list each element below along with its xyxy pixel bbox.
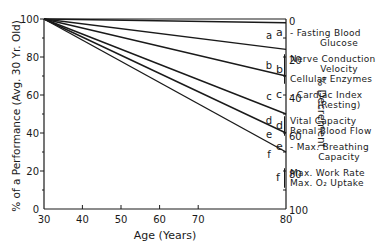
y-tick-labels: 100 80 60 40 20 0 — [20, 14, 39, 215]
legend-item-a: a - Fasting Blood Glucose — [276, 28, 388, 48]
x-tick-labels: 30 40 50 60 70 80 — [38, 214, 293, 225]
svg-text:f: f — [267, 149, 271, 160]
svg-text:40: 40 — [26, 128, 39, 139]
legend-f-line-1: Max. Work Rate — [290, 168, 388, 178]
svg-text:70: 70 — [192, 214, 205, 225]
svg-text:40: 40 — [76, 214, 89, 225]
line-letter-labels: a b c d e f — [266, 30, 272, 160]
svg-text:100: 100 — [20, 14, 39, 25]
svg-text:a: a — [266, 30, 272, 41]
brace-icon — [284, 116, 285, 136]
svg-text:80: 80 — [26, 52, 39, 63]
legend-item-f: f Max. Work Rate Max. O₂ Uptake — [276, 168, 388, 188]
brace-icon — [284, 168, 285, 188]
legend-b-line-1: Nerve Conduction — [290, 54, 388, 64]
legend-f-line-2: Max. O₂ Uptake — [290, 178, 388, 188]
legend-key-e: e — [276, 142, 283, 152]
svg-text:e: e — [266, 129, 272, 140]
legend-item-d: d Vital Capacity Renal Blood Flow — [276, 116, 388, 136]
legend-a-line-2: Glucose — [290, 38, 388, 48]
legend-d-line-2: Renal Blood Flow — [290, 126, 388, 136]
line-c — [44, 19, 286, 76]
legend-key-b: b — [276, 65, 283, 75]
legend-b-line-2: Velocity — [290, 64, 388, 74]
svg-text:d: d — [266, 115, 272, 126]
legend-e-line-2: Capacity — [290, 152, 388, 162]
svg-text:20: 20 — [26, 166, 39, 177]
svg-text:60: 60 — [26, 90, 39, 101]
svg-text:b: b — [266, 60, 272, 71]
legend-key-f: f — [276, 173, 280, 183]
svg-text:50: 50 — [115, 214, 128, 225]
line-d — [44, 19, 286, 114]
line-b — [44, 19, 286, 49]
brace-icon — [284, 54, 285, 84]
legend-c-line-2: (Resting) — [290, 100, 388, 110]
legend-b-line-3: Cellular Enzymes — [290, 74, 388, 84]
legend-e-line-1: - Max. Breathing — [290, 142, 388, 152]
legend-item-c: c - Cardiac Index (Resting) — [276, 90, 388, 110]
legend-key-a: a — [276, 28, 283, 38]
legend-a-line-1: - Fasting Blood — [290, 28, 388, 38]
legend-c-line-1: - Cardiac Index — [290, 90, 388, 100]
svg-text:30: 30 — [38, 214, 51, 225]
legend: a - Fasting Blood Glucose b Nerve Conduc… — [276, 28, 388, 194]
svg-text:0: 0 — [289, 16, 295, 27]
y-axis-title: % of a Performance (Avg. 30 Yr. Old) — [10, 20, 22, 212]
x-axis-title: Age (Years) — [134, 229, 196, 242]
svg-text:60: 60 — [153, 214, 166, 225]
line-e — [44, 19, 286, 133]
data-lines — [44, 19, 286, 152]
legend-key-c: c — [276, 90, 282, 100]
legend-d-line-1: Vital Capacity — [290, 116, 388, 126]
legend-key-d: d — [276, 121, 283, 131]
legend-item-e: e - Max. Breathing Capacity — [276, 142, 388, 162]
legend-item-b: b Nerve Conduction Velocity Cellular Enz… — [276, 54, 388, 84]
svg-text:80: 80 — [280, 214, 293, 225]
line-f — [44, 19, 286, 152]
svg-text:c: c — [266, 91, 272, 102]
